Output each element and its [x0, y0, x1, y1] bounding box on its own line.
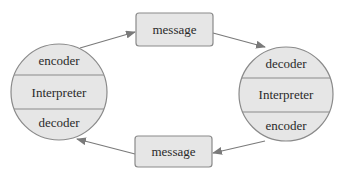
top-message-box: message: [136, 13, 213, 46]
arrow-top-message-to-right: [213, 33, 265, 47]
right-node: decoder Interpreter encoder: [230, 47, 340, 141]
bottom-message-box: message: [135, 136, 212, 167]
arrow-bottom-message-to-left: [77, 139, 135, 154]
left-node-section-top: encoder: [38, 53, 80, 68]
left-node-section-bottom: decoder: [38, 115, 80, 130]
arrow-right-to-bottom-message: [213, 141, 265, 153]
right-node-section-top: decoder: [265, 56, 307, 71]
top-message-label: message: [152, 22, 196, 37]
left-node-section-middle: Interpreter: [32, 85, 88, 100]
arrow-left-to-top-message: [80, 32, 135, 48]
communication-diagram: encoder Interpreter decoder decoder Inte…: [0, 0, 347, 181]
bottom-message-label: message: [151, 144, 195, 159]
right-node-section-bottom: encoder: [265, 118, 307, 133]
left-node: encoder Interpreter decoder: [0, 44, 120, 140]
right-node-section-middle: Interpreter: [259, 87, 315, 102]
